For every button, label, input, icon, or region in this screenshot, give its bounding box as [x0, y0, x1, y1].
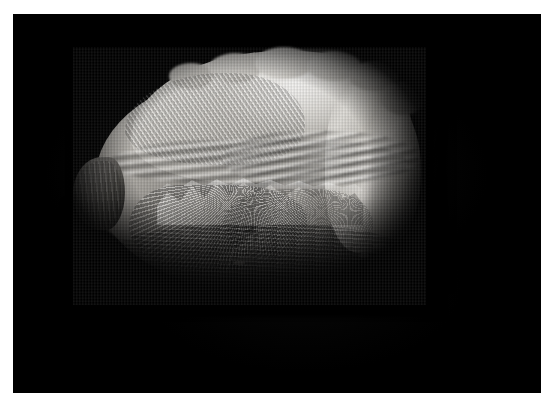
lower-body-ribs — [113, 225, 399, 299]
ruffle-bump-3 — [255, 47, 313, 79]
leaf-fleck-2 — [359, 253, 369, 258]
cabbage-subject — [73, 47, 426, 305]
mid-rib-band-right — [223, 131, 419, 185]
leaf-fleck-1 — [373, 243, 389, 249]
stem-nub-ribs — [75, 161, 121, 227]
leaf-fleck-3 — [233, 261, 245, 265]
photo-page — [0, 0, 555, 410]
photo-plate — [13, 14, 541, 393]
ruffle-bump-6 — [381, 81, 425, 115]
